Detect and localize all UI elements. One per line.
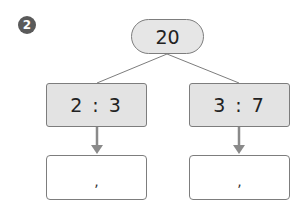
answer-box-left[interactable]: , xyxy=(46,155,147,200)
ratio-box-right: 3 : 7 xyxy=(189,83,290,127)
answer-box-right[interactable]: , xyxy=(189,155,290,200)
ratio-box-left: 2 : 3 xyxy=(46,83,147,127)
problem-number-badge: 2 xyxy=(18,16,36,34)
total-node: 20 xyxy=(131,19,204,54)
